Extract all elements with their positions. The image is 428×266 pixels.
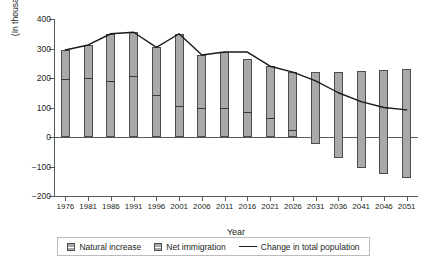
y-axis-label: (In thousands) xyxy=(10,0,20,69)
y-tick-label: −100 xyxy=(32,162,51,171)
x-tick-label: 1981 xyxy=(79,203,97,211)
x-axis-line xyxy=(54,196,418,197)
x-tick-mark xyxy=(270,196,271,201)
x-tick-label: 1986 xyxy=(102,203,120,211)
x-tick-label: 1996 xyxy=(147,203,165,211)
legend-item-net-immigration: Net immigration xyxy=(154,242,226,252)
swatch-gray-icon xyxy=(67,243,75,251)
y-tick-label: 400 xyxy=(37,15,51,24)
y-tick-label: 100 xyxy=(37,103,51,112)
legend-item-change-in-total-population: Change in total population xyxy=(239,242,360,252)
legend-item-natural-increase: Natural increase xyxy=(67,242,141,252)
x-tick-mark xyxy=(384,196,385,201)
x-tick-mark xyxy=(156,196,157,201)
x-tick-mark xyxy=(111,196,112,201)
x-tick-mark xyxy=(293,196,294,201)
x-tick-label: 2011 xyxy=(216,203,233,211)
change-in-total-population-line xyxy=(54,19,418,196)
x-tick-label: 2051 xyxy=(398,203,416,211)
x-tick-label: 1991 xyxy=(125,203,143,211)
x-tick-mark xyxy=(407,196,408,201)
y-tick-label: 200 xyxy=(37,74,51,83)
x-tick-label: 2016 xyxy=(238,203,256,211)
line-black-icon xyxy=(239,246,257,247)
x-tick-label: 1976 xyxy=(56,203,74,211)
x-tick-mark xyxy=(179,196,180,201)
x-tick-label: 2001 xyxy=(170,203,188,211)
x-tick-label: 2041 xyxy=(352,203,370,211)
x-tick-mark xyxy=(247,196,248,201)
x-tick-mark xyxy=(338,196,339,201)
x-tick-mark xyxy=(134,196,135,201)
x-tick-label: 2031 xyxy=(307,203,325,211)
x-tick-mark xyxy=(202,196,203,201)
plot-area: (In thousands) 4003002001000−100−200 197… xyxy=(54,19,418,196)
legend-label: Natural increase xyxy=(79,242,141,252)
x-tick-mark xyxy=(65,196,66,201)
x-axis-label: Year xyxy=(54,227,418,237)
legend-label: Change in total population xyxy=(261,242,360,252)
x-tick-label: 2021 xyxy=(261,203,279,211)
x-tick-mark xyxy=(316,196,317,201)
y-tick-label: −200 xyxy=(32,192,51,201)
x-tick-label: 2006 xyxy=(193,203,211,211)
x-tick-mark xyxy=(361,196,362,201)
y-tick-label: 300 xyxy=(37,44,51,53)
x-tick-mark xyxy=(225,196,226,201)
swatch-gray-icon xyxy=(154,243,162,251)
x-tick-mark xyxy=(88,196,89,201)
x-tick-label: 2036 xyxy=(329,203,347,211)
chart-legend: Natural increase Net immigration Change … xyxy=(57,237,370,256)
x-tick-label: 2026 xyxy=(284,203,302,211)
x-tick-label: 2046 xyxy=(375,203,393,211)
legend-label: Net immigration xyxy=(166,242,226,252)
population-change-chart: (In thousands) 4003002001000−100−200 197… xyxy=(0,0,428,266)
y-tick-label: 0 xyxy=(46,133,51,142)
